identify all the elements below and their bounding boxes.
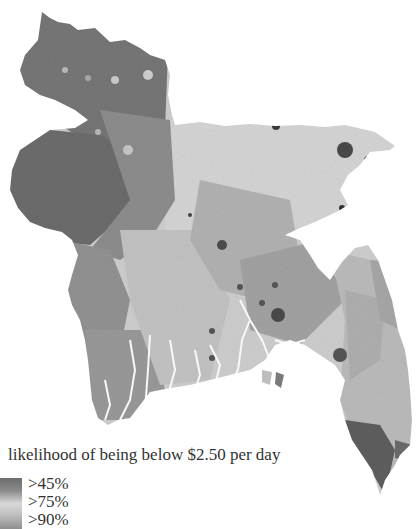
legend-label-90: >90% (28, 510, 69, 529)
legend-label-75: >75% (28, 492, 69, 512)
legend-label-45: >45% (28, 474, 69, 494)
legend-title: likelihood of being below $2.50 per day (8, 445, 280, 465)
delta-islands (262, 370, 284, 388)
legend-color-scale (0, 478, 22, 529)
